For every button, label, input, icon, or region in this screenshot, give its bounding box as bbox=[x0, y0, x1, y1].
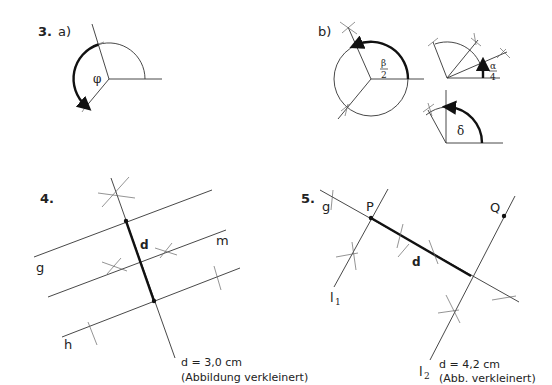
line-l1-label: l bbox=[330, 290, 334, 305]
line-h bbox=[62, 268, 240, 337]
line-l1 bbox=[334, 189, 388, 287]
line-g-label: g bbox=[322, 199, 330, 214]
beta-numerator: β bbox=[381, 58, 386, 68]
angle-delta-label: δ bbox=[457, 124, 464, 138]
line-m bbox=[48, 230, 226, 297]
exercise-3b-quarter: α 4 bbox=[428, 33, 510, 82]
line-l2-label: l bbox=[419, 364, 423, 379]
exercise-5: 5. g P Q l 1 l 2 d d = 4,2 cm (Abb. verk… bbox=[301, 189, 536, 385]
caption-5-line2: (Abb. verkleinert) bbox=[439, 372, 536, 385]
distance-d bbox=[126, 221, 154, 301]
construction-diagrams: 3. a) φ b) β 2 α 4 bbox=[0, 0, 552, 385]
exercise-3b-circle: b) β 2 bbox=[318, 22, 424, 119]
line-g bbox=[34, 190, 212, 257]
line-g-label: g bbox=[36, 260, 44, 275]
exercise-3-number: 3. bbox=[38, 24, 52, 39]
exercise-4-number: 4. bbox=[40, 191, 54, 206]
line-l2 bbox=[430, 196, 515, 360]
exercise-4: 4. g m h d d = 3,0 cm (Abbildung verklei… bbox=[34, 177, 308, 384]
caption-5-line1: d = 4,2 cm bbox=[439, 358, 500, 371]
distance-d bbox=[371, 218, 471, 276]
line-l2-subscript: 2 bbox=[424, 371, 430, 381]
part-b-label: b) bbox=[318, 24, 331, 39]
angle-phi-label: φ bbox=[93, 72, 101, 86]
beta-denominator: 2 bbox=[381, 70, 387, 80]
segment-d-label: d bbox=[412, 255, 421, 269]
alpha-numerator: α bbox=[490, 61, 496, 71]
line-l1-subscript: 1 bbox=[335, 297, 341, 307]
part-a-label: a) bbox=[58, 24, 71, 39]
caption-4-line1: d = 3,0 cm bbox=[181, 356, 242, 369]
exercise-5-number: 5. bbox=[301, 191, 315, 206]
point-p-label: P bbox=[366, 199, 374, 214]
segment-d-label: d bbox=[140, 238, 149, 252]
point-q-label: Q bbox=[490, 200, 500, 215]
exercise-3a: 3. a) φ bbox=[38, 24, 162, 112]
line-h-label: h bbox=[64, 337, 72, 352]
caption-4-line2: (Abbildung verkleinert) bbox=[181, 371, 308, 384]
alpha-denominator: 4 bbox=[490, 72, 496, 82]
line-m-label: m bbox=[216, 233, 229, 248]
exercise-3b-delta: δ bbox=[423, 90, 503, 143]
